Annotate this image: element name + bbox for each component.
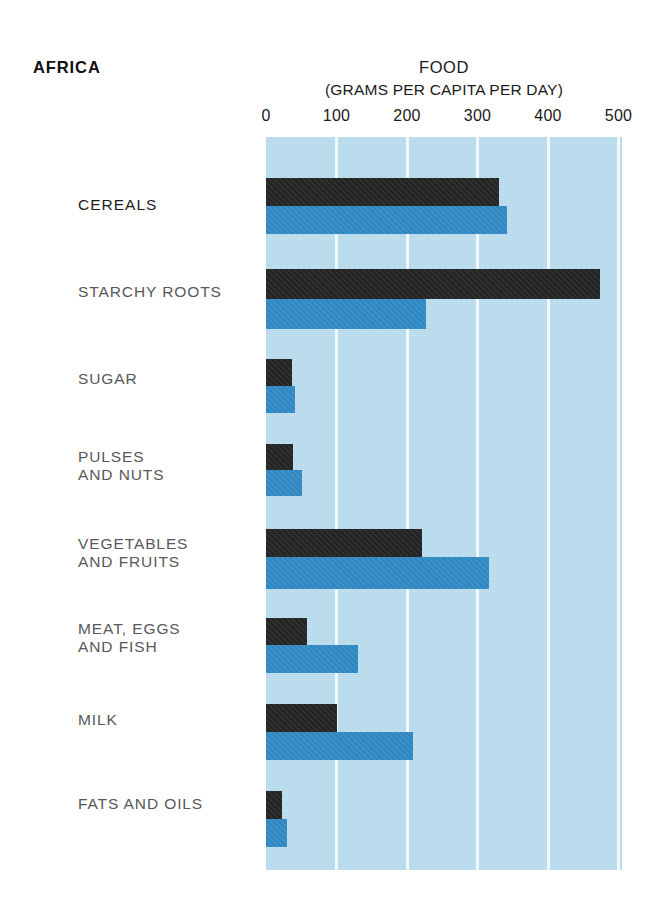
x-tick-300: 300 [464, 107, 492, 125]
x-tick-400: 400 [534, 107, 562, 125]
bar-black-6 [266, 704, 337, 732]
bar-black-2 [266, 359, 292, 386]
bar-blue-2 [266, 386, 295, 413]
chart-subtitle: (GRAMS PER CAPITA PER DAY) [266, 80, 622, 99]
category-label-3: PULSES AND NUTS [78, 448, 258, 485]
chart-title: FOOD [419, 58, 469, 76]
chart-title-block: FOOD (GRAMS PER CAPITA PER DAY) [266, 57, 622, 99]
bar-blue-3 [266, 470, 302, 496]
category-label-6: MILK [78, 711, 258, 729]
bar-blue-5 [266, 645, 358, 673]
bar-blue-0 [266, 206, 507, 234]
bar-blue-1 [266, 299, 426, 329]
bar-black-5 [266, 618, 307, 645]
bar-blue-7 [266, 819, 287, 847]
bar-black-7 [266, 791, 282, 819]
gridline-300 [476, 137, 479, 870]
x-tick-200: 200 [393, 107, 421, 125]
plot-area [266, 137, 622, 870]
gridline-400 [547, 137, 550, 870]
bar-black-4 [266, 529, 422, 557]
food-consumption-bar-chart: AFRICA FOOD (GRAMS PER CAPITA PER DAY) 0… [0, 0, 657, 902]
bar-black-1 [266, 269, 600, 299]
category-label-1: STARCHY ROOTS [78, 283, 258, 301]
category-label-4: VEGETABLES AND FRUITS [78, 535, 258, 572]
gridline-100 [335, 137, 338, 870]
bar-black-3 [266, 444, 293, 470]
category-label-7: FATS AND OILS [78, 795, 258, 813]
x-tick-500: 500 [605, 107, 633, 125]
x-tick-0: 0 [261, 107, 270, 125]
x-tick-100: 100 [323, 107, 351, 125]
bar-blue-4 [266, 557, 489, 589]
category-label-0: CEREALS [78, 196, 258, 214]
region-title: AFRICA [33, 58, 101, 77]
x-axis-tick-labels: 0100200300400500 [0, 107, 657, 129]
category-label-2: SUGAR [78, 370, 258, 388]
gridline-200 [406, 137, 409, 870]
bar-blue-6 [266, 732, 413, 760]
bar-black-0 [266, 178, 499, 206]
gridline-500 [617, 137, 620, 870]
category-label-5: MEAT, EGGS AND FISH [78, 620, 258, 657]
